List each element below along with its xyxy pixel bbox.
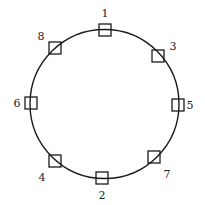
node-box bbox=[96, 172, 108, 184]
node-label: 6 bbox=[14, 97, 21, 110]
ring-diagram: 13572468 bbox=[0, 0, 205, 205]
node-box bbox=[152, 50, 164, 62]
node-5: 5 bbox=[172, 99, 194, 112]
node-label: 7 bbox=[164, 168, 171, 181]
node-8: 8 bbox=[38, 30, 62, 54]
node-box bbox=[49, 155, 61, 167]
node-label: 5 bbox=[187, 99, 194, 112]
node-label: 4 bbox=[39, 171, 46, 184]
node-box bbox=[148, 151, 160, 163]
node-box bbox=[99, 24, 111, 36]
node-3: 3 bbox=[152, 40, 177, 62]
node-label: 1 bbox=[102, 7, 109, 20]
node-4: 4 bbox=[39, 155, 62, 184]
node-2: 2 bbox=[96, 172, 108, 202]
node-label: 8 bbox=[38, 30, 45, 43]
ring-nodes: 13572468 bbox=[14, 7, 194, 202]
node-label: 3 bbox=[170, 40, 177, 53]
ring-diagram-svg: 13572468 bbox=[0, 0, 205, 205]
node-6: 6 bbox=[14, 97, 38, 110]
node-box bbox=[172, 99, 184, 111]
node-label: 2 bbox=[99, 189, 106, 202]
node-box bbox=[49, 42, 61, 54]
node-1: 1 bbox=[99, 7, 111, 36]
node-box bbox=[25, 97, 37, 109]
node-7: 7 bbox=[148, 151, 171, 181]
